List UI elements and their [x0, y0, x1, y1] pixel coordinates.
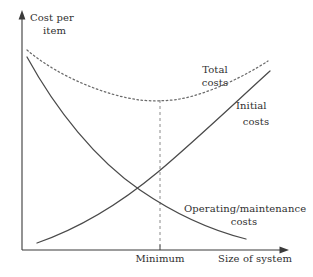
initial-costs-label-line-2: costs [236, 116, 276, 129]
x-axis-label: Size of system [218, 253, 292, 266]
total-costs-label-line-2: costs [193, 77, 237, 90]
y-axis-arrow-icon [19, 10, 26, 20]
initial-costs-label-line-1: Initial [236, 100, 282, 113]
x-tick-label-minimum: Minimum [128, 253, 192, 266]
total-costs-label-line-1: Total [193, 64, 237, 77]
cost-per-item-chart: Cost per item Total costs Initial costs … [0, 0, 313, 277]
y-axis-label-line-2: item [43, 25, 66, 38]
operating-costs-label-line-1: Operating/maintenance [184, 203, 304, 216]
y-axis [19, 10, 26, 250]
chart-canvas [0, 0, 313, 277]
y-axis-label-line-1: Cost per [30, 12, 74, 25]
operating-costs-label-line-2: costs [184, 216, 304, 229]
